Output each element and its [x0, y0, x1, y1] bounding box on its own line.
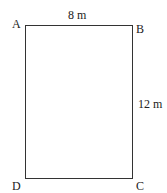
vertex-label-b: B — [136, 23, 144, 35]
rectangle-abcd — [25, 25, 133, 179]
vertex-label-c: C — [136, 180, 144, 192]
vertex-label-a: A — [12, 18, 21, 30]
top-side-length: 8 m — [68, 9, 86, 21]
vertex-label-d: D — [12, 180, 21, 192]
right-side-length: 12 m — [138, 98, 162, 110]
